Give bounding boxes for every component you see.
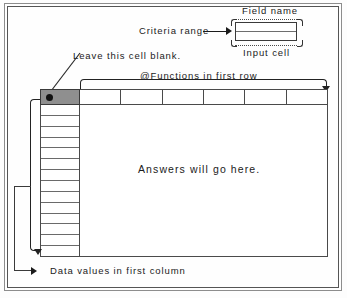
input-cell-label: Input cell (243, 48, 290, 58)
criteria-bottom-dotted-rail (235, 45, 297, 46)
first-column-cell[interactable] (41, 159, 79, 170)
first-column-bracket (30, 99, 40, 251)
first-column-cell[interactable] (41, 246, 79, 256)
criteria-brace-top-right-icon (297, 19, 303, 26)
first-column-cell[interactable] (41, 224, 79, 235)
criteria-arrow-line (203, 31, 227, 32)
header-cell[interactable] (163, 90, 204, 104)
criteria-top-dotted-rail (235, 19, 297, 20)
header-cell[interactable] (245, 90, 286, 104)
answers-area-label: Answers will go here. (138, 163, 260, 175)
first-column-cells (40, 105, 80, 257)
criteria-range-box (235, 22, 297, 41)
first-column-cell[interactable] (41, 181, 79, 192)
data-values-connector-elbow (14, 186, 31, 271)
header-cell[interactable] (287, 90, 327, 104)
first-column-cell[interactable] (41, 203, 79, 214)
first-column-cell[interactable] (41, 214, 79, 225)
diagram-canvas: Field name Input cell Criteria range Lea… (0, 0, 347, 298)
first-column-cell[interactable] (41, 192, 79, 203)
field-name-label: Field name (242, 6, 298, 16)
data-values-arrow-head-icon (31, 267, 37, 275)
first-column-cell[interactable] (41, 138, 79, 149)
criteria-range-label: Criteria range (139, 26, 209, 36)
first-column-cell[interactable] (41, 148, 79, 159)
data-values-label: Data values in first column (50, 266, 186, 276)
first-column-cell[interactable] (41, 127, 79, 138)
header-cell[interactable] (204, 90, 245, 104)
criteria-box-row-divider (236, 31, 296, 32)
first-column-cell[interactable] (41, 116, 79, 127)
first-column-cell[interactable] (41, 170, 79, 181)
first-column-bracket-arrow-icon (34, 249, 42, 255)
criteria-brace-bottom-left-icon (231, 40, 237, 47)
corner-cell-pointer-dot-icon (46, 94, 53, 101)
table-header-row (80, 89, 328, 105)
header-cell[interactable] (121, 90, 162, 104)
header-cell[interactable] (80, 90, 121, 104)
criteria-brace-bottom-right-icon (297, 40, 303, 47)
leave-cell-blank-label: Leave this cell blank. (73, 51, 181, 61)
first-column-cell[interactable] (41, 105, 79, 116)
first-column-cell[interactable] (41, 235, 79, 246)
criteria-arrow-head-icon (226, 27, 232, 35)
